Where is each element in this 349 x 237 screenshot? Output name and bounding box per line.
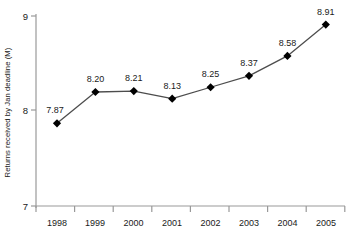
x-tick-label-2002: 2002 xyxy=(200,218,220,228)
x-tick-label-1999: 1999 xyxy=(85,218,105,228)
y-tick-label-7: 7 xyxy=(23,201,28,212)
data-point-label: 8.91 xyxy=(317,7,335,17)
data-point-marker xyxy=(207,83,215,91)
series-returns: 7.878.208.218.138.258.378.588.91 xyxy=(46,7,334,128)
data-point-label: 8.20 xyxy=(87,74,105,84)
y-tick-label-8: 8 xyxy=(23,105,28,116)
data-point-label: 8.37 xyxy=(240,58,258,68)
data-point-marker xyxy=(168,95,176,103)
x-tick-label-2005: 2005 xyxy=(316,218,336,228)
y-axis: 9 8 7 xyxy=(23,11,36,212)
x-axis: 1998 1999 2000 2001 2002 2003 2004 2005 xyxy=(36,206,345,228)
chart-canvas: 9 8 7 1998 1999 2000 2001 2002 2003 2004… xyxy=(0,0,349,237)
data-point-label: 8.21 xyxy=(125,73,143,83)
x-tick-label-2003: 2003 xyxy=(239,218,259,228)
data-point-label: 8.13 xyxy=(163,81,181,91)
line-chart: Returns received by Jan deadline (M) 9 8… xyxy=(0,0,349,237)
x-tick-label-2004: 2004 xyxy=(277,218,297,228)
data-point-marker xyxy=(130,87,138,95)
data-point-marker xyxy=(245,72,253,80)
x-tick-label-2001: 2001 xyxy=(162,218,182,228)
y-tick-label-9: 9 xyxy=(23,11,28,22)
data-point-label: 7.87 xyxy=(46,105,64,115)
data-point-label: 8.25 xyxy=(202,69,220,79)
data-point-label: 8.58 xyxy=(279,38,297,48)
x-tick-label-1998: 1998 xyxy=(47,218,67,228)
series-point-labels: 7.878.208.218.138.258.378.588.91 xyxy=(46,7,334,116)
x-tick-label-2000: 2000 xyxy=(123,218,143,228)
